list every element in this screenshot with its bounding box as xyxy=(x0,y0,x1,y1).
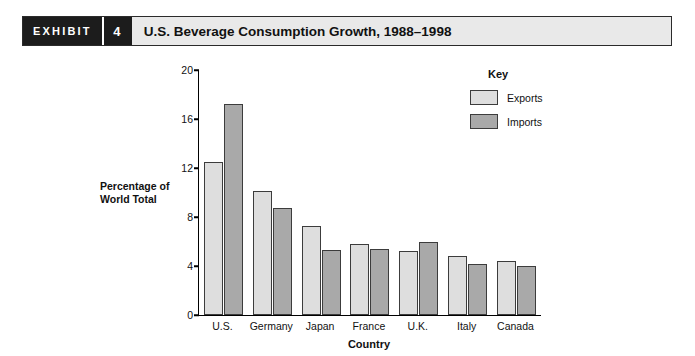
legend-item-imports: Imports xyxy=(470,114,610,129)
legend-swatch-exports xyxy=(470,90,498,105)
bar-exports-4 xyxy=(399,251,418,315)
y-tick-20: 20 xyxy=(169,64,193,76)
y-tick-mark xyxy=(194,265,199,267)
x-tick-label-1: Germany xyxy=(248,320,294,332)
bar-group xyxy=(399,70,438,315)
x-axis-title: Country xyxy=(198,338,540,350)
y-tick-mark xyxy=(194,216,199,218)
bar-exports-5 xyxy=(448,256,467,315)
bar-exports-3 xyxy=(350,244,369,315)
bar-exports-1 xyxy=(253,191,272,315)
y-tick-12: 12 xyxy=(169,162,193,174)
y-tick-mark xyxy=(194,69,199,71)
bar-imports-4 xyxy=(419,242,438,316)
x-axis-tick-labels: U.S.GermanyJapanFranceU.K.ItalyCanada xyxy=(198,320,540,332)
bar-group xyxy=(302,70,341,315)
x-tick-label-5: Italy xyxy=(444,320,490,332)
y-tick-4: 4 xyxy=(169,260,193,272)
bar-exports-0 xyxy=(204,162,223,315)
bar-imports-2 xyxy=(322,250,341,315)
y-tick-mark xyxy=(194,167,199,169)
bar-imports-3 xyxy=(370,249,389,315)
x-tick-label-0: U.S. xyxy=(199,320,245,332)
y-tick-mark xyxy=(194,314,199,316)
y-tick-8: 8 xyxy=(169,211,193,223)
bar-exports-6 xyxy=(497,261,516,315)
exhibit-number: 4 xyxy=(102,17,130,45)
bar-imports-0 xyxy=(224,104,243,315)
y-tick-16: 16 xyxy=(169,113,193,125)
legend-item-exports: Exports xyxy=(470,90,610,105)
bar-exports-2 xyxy=(302,226,321,315)
bar-group xyxy=(253,70,292,315)
x-tick-label-4: U.K. xyxy=(395,320,441,332)
bar-group xyxy=(204,70,243,315)
y-axis-title-line2: World Total xyxy=(100,193,192,206)
x-tick-label-2: Japan xyxy=(297,320,343,332)
y-axis-title: Percentage of World Total xyxy=(100,180,192,206)
legend: Key Exports Imports xyxy=(470,68,610,138)
bar-chart: Percentage of World Total 048121620 U.S.… xyxy=(0,52,695,352)
x-tick-label-3: France xyxy=(346,320,392,332)
y-axis-title-line1: Percentage of xyxy=(100,180,192,193)
y-tick-mark xyxy=(194,118,199,120)
exhibit-tag-label: EXHIBIT xyxy=(23,17,102,45)
exhibit-title: U.S. Beverage Consumption Growth, 1988–1… xyxy=(130,17,671,45)
x-tick-label-6: Canada xyxy=(492,320,538,332)
bar-imports-1 xyxy=(273,208,292,315)
legend-title: Key xyxy=(488,68,610,80)
legend-swatch-imports xyxy=(470,114,498,129)
bar-imports-5 xyxy=(468,264,487,315)
exhibit-header: EXHIBIT 4 U.S. Beverage Consumption Grow… xyxy=(22,16,672,46)
bar-group xyxy=(350,70,389,315)
bar-imports-6 xyxy=(517,266,536,315)
legend-label-exports: Exports xyxy=(507,92,543,104)
legend-label-imports: Imports xyxy=(507,116,542,128)
y-tick-0: 0 xyxy=(169,309,193,321)
